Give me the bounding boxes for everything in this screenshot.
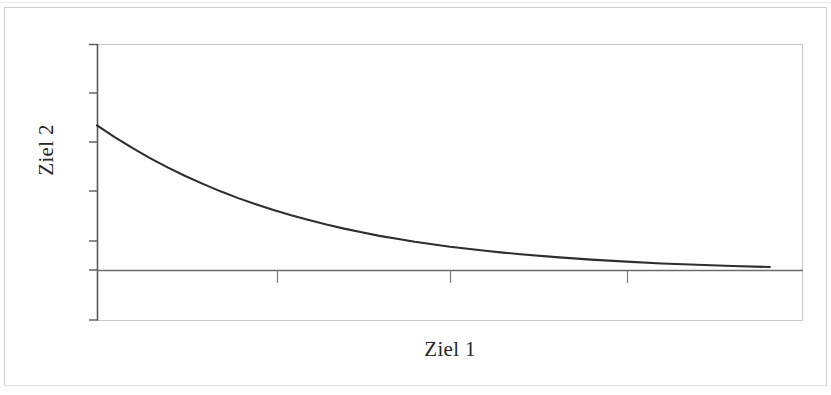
plot-area — [0, 0, 831, 395]
x-axis-title: Ziel 1 — [380, 337, 520, 362]
y-axis-title: Ziel 2 — [34, 90, 59, 210]
y-axis-ticks — [89, 45, 98, 321]
x-axis-ticks — [278, 271, 628, 284]
scanned-page: Ziel 2 Ziel 1 — [0, 0, 831, 395]
chart-figure: Ziel 2 Ziel 1 — [0, 0, 831, 395]
data-series-curve — [97, 125, 770, 267]
